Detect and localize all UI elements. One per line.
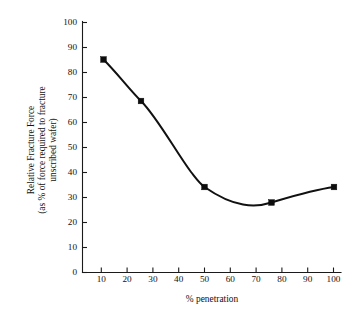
x-tick-label: 60 (226, 274, 236, 284)
y-tick-label: 40 (68, 167, 78, 177)
y-axis-title-line-3: unscribed wafer) (48, 118, 59, 181)
x-tick-label: 100 (327, 274, 341, 284)
x-tick-label: 80 (277, 274, 287, 284)
data-point (138, 98, 144, 104)
y-tick-label: 60 (68, 117, 78, 127)
x-tick-label: 10 (97, 274, 107, 284)
x-tick-label: 90 (303, 274, 313, 284)
x-tick-label: 70 (252, 274, 262, 284)
y-axis-title-line-1: Relative Fracture Force (26, 106, 36, 195)
data-point (202, 184, 208, 190)
x-axis-title: % penetration (186, 294, 239, 304)
x-tick-label: 40 (174, 274, 184, 284)
fracture-force-line-chart: 0 10 20 30 40 50 60 70 80 90 100 (0, 0, 361, 320)
y-tick-label: 90 (68, 42, 78, 52)
y-tick-label: 0 (72, 267, 77, 277)
x-tick-label: 30 (148, 274, 158, 284)
y-tick-label: 10 (68, 242, 78, 252)
y-tick-label: 30 (68, 192, 78, 202)
y-tick-label: 20 (68, 217, 78, 227)
x-tick-label: 50 (200, 274, 210, 284)
data-point (269, 200, 275, 206)
y-tick-label: 100 (63, 17, 77, 27)
y-tick-label: 70 (68, 92, 78, 102)
y-axis-title-line-2: (as % of force required to fracture (37, 86, 48, 214)
data-point (331, 184, 337, 190)
data-point (101, 57, 107, 63)
y-tick-label: 50 (68, 142, 78, 152)
x-tick-label: 20 (123, 274, 133, 284)
chart-figure: 0 10 20 30 40 50 60 70 80 90 100 (0, 0, 361, 320)
y-tick-label: 80 (68, 67, 78, 77)
